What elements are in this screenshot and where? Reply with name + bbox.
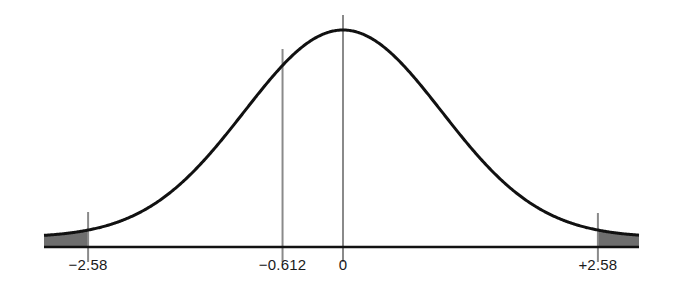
tick-label-neg-2-58: −2.58 bbox=[69, 256, 108, 273]
shaded-tails bbox=[44, 230, 639, 247]
tick-label-zero: 0 bbox=[339, 256, 348, 273]
tick-label-neg-0-612: −0.612 bbox=[259, 256, 307, 273]
tick-label-pos-2-58: +2.58 bbox=[578, 256, 617, 273]
marker-lines bbox=[88, 15, 598, 262]
bell-curve bbox=[44, 30, 639, 235]
